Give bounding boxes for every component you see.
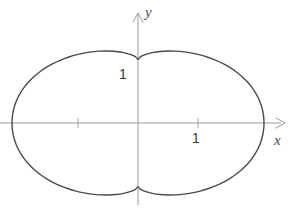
x-axis-group (0, 118, 285, 128)
plot-canvas (0, 0, 291, 210)
y-axis-group (133, 13, 143, 205)
tick-label-y-1: 1 (119, 67, 127, 81)
math-figure: y x 1 1 (0, 0, 291, 210)
y-axis-label: y (145, 5, 152, 20)
x-axis-label: x (274, 133, 281, 148)
tick-label-x-1: 1 (192, 131, 200, 145)
